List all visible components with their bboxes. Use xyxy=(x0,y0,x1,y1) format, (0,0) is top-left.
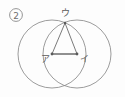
right-center-label: イ xyxy=(80,54,89,64)
right-side-segment xyxy=(65,23,77,54)
left-side-segment xyxy=(52,23,65,54)
apex-point xyxy=(64,22,66,24)
apex-label: ウ xyxy=(61,8,70,18)
right-center-point xyxy=(76,53,79,56)
item-number-badge: 2 xyxy=(10,9,23,22)
item-number-label: 2 xyxy=(13,11,19,21)
geometry-figure-panel: 2 ウ ア イ xyxy=(0,0,125,97)
geometry-diagram: 2 ウ ア イ xyxy=(0,0,125,97)
left-center-point xyxy=(51,53,54,56)
left-center-label: ア xyxy=(41,54,50,64)
